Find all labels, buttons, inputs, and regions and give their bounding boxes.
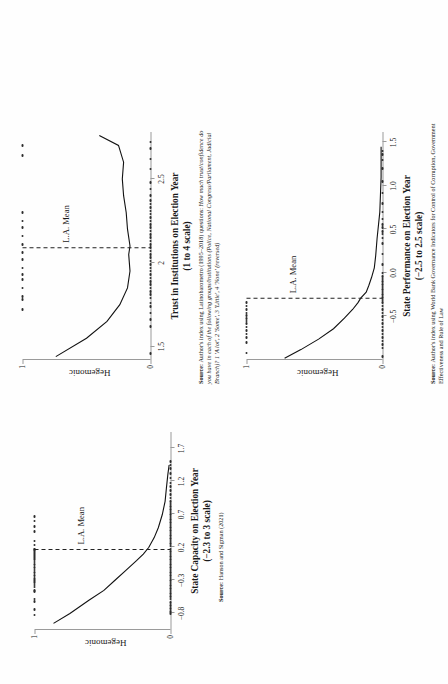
x-axis-tick-label: 0.2 <box>176 537 185 559</box>
source-label: Source: <box>196 364 203 384</box>
source-label: Source: <box>216 582 223 602</box>
fit-curve-layer <box>246 132 382 360</box>
fit-curve-layer <box>34 432 170 630</box>
x-axis-tick-label: 0.0 <box>388 262 397 284</box>
source-note: Source: Hanson and Sigman (2021) <box>216 432 224 602</box>
local-polynomial-fit-line <box>55 135 129 356</box>
x-axis-title-scale: (−2.3 to 3 scale) <box>200 432 212 630</box>
chart-panel-trust-institutions: 1.522.501L.A. MeanHegemonicTrust in Inst… <box>16 122 234 384</box>
x-axis-title: State Capacity on Election Year(−2.3 to … <box>188 432 212 630</box>
x-axis-tick-label: 1.2 <box>176 471 185 493</box>
y-axis-tick <box>382 360 383 364</box>
plot-area-state-performance: −0.50.00.51.01.501L.A. Mean <box>246 132 382 360</box>
x-axis-tick-label: −0.8 <box>176 603 185 625</box>
la-mean-label: L.A. Mean <box>60 205 70 242</box>
x-axis-tick <box>382 141 386 142</box>
x-axis-title: Trust in Institutions on Election Year(1… <box>168 132 192 360</box>
y-axis-tick <box>22 360 23 364</box>
x-axis-tick-label: −0.3 <box>176 570 185 592</box>
y-axis-title: Hegemonic <box>69 368 110 378</box>
chart-panel-state-capacity: −0.8−0.30.20.71.21.701L.A. MeanHegemonic… <box>28 422 254 654</box>
source-text: Author's index using World Bank Governan… <box>428 124 443 384</box>
source-text: Author's index using Latinobarometro (19… <box>196 206 203 362</box>
x-axis-tick-label: 2 <box>156 252 165 274</box>
y-axis-tick <box>150 360 151 364</box>
la-mean-label: L.A. Mean <box>287 256 297 293</box>
y-axis-tick-label: 1 <box>29 635 38 647</box>
x-axis-title-main: State Capacity on Election Year <box>188 432 200 630</box>
y-axis-tick-label: 0 <box>165 635 174 647</box>
la-mean-label: L.A. Mean <box>75 507 85 544</box>
x-axis-title-main: Trust in Institutions on Election Year <box>168 132 180 360</box>
local-polynomial-fit-line <box>53 465 169 623</box>
x-axis-title-main: State Performance on Election Year <box>400 132 412 360</box>
y-axis-tick <box>170 630 171 634</box>
y-axis-title: Hegemonic <box>297 368 338 378</box>
y-axis-tick-label: 0 <box>377 365 386 377</box>
x-axis-tick-label: 0.7 <box>176 504 185 526</box>
x-axis-title-scale: (−2.5 to 2.5 scale) <box>412 132 424 360</box>
x-axis-tick-label: 1.5 <box>156 336 165 358</box>
local-polynomial-fit-line <box>284 147 381 359</box>
chart-panel-state-performance: −0.50.00.51.01.501L.A. MeanHegemonicStat… <box>240 122 448 384</box>
x-axis-tick <box>150 346 154 347</box>
source-label: Source: <box>428 364 435 384</box>
fit-curve-layer <box>22 132 150 360</box>
x-axis-tick-label: 1.5 <box>388 131 397 153</box>
x-axis-title-scale: (1 to 4 scale) <box>180 132 192 360</box>
y-axis-tick <box>34 630 35 634</box>
source-text: Hanson and Sigman (2021) <box>216 512 223 580</box>
y-axis-tick <box>246 360 247 364</box>
x-axis-tick <box>150 178 154 179</box>
x-axis-tick-label: 1.0 <box>388 175 397 197</box>
x-axis-tick-label: 1.7 <box>176 438 185 460</box>
source-note: Source: Author's index using World Bank … <box>428 122 444 384</box>
x-axis-tick <box>382 185 386 186</box>
plot-area-trust-institutions: 1.522.501L.A. Mean <box>22 132 150 360</box>
plot-area-state-capacity: −0.8−0.30.20.71.21.701L.A. Mean <box>34 432 170 630</box>
y-axis-title: Hegemonic <box>85 638 126 648</box>
source-note: Source: Author's index using Latinobarom… <box>196 122 220 384</box>
x-axis-title: State Performance on Election Year(−2.5 … <box>400 132 424 360</box>
y-axis-tick-label: 1 <box>241 365 250 377</box>
x-axis-tick <box>170 448 174 449</box>
y-axis-tick-label: 1 <box>17 365 26 377</box>
y-axis-tick-label: 0 <box>145 365 154 377</box>
x-axis-tick-label: 2.5 <box>156 168 165 190</box>
x-axis-tick-label: −0.5 <box>388 306 397 328</box>
x-axis-tick-label: 0.5 <box>388 218 397 240</box>
